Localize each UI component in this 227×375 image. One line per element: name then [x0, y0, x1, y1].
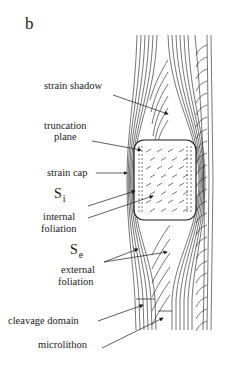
external-foliation-line: [207, 35, 209, 330]
microlithon-crenulation: [196, 261, 207, 271]
porphyroblast: [134, 140, 196, 220]
strain-shadow-curve: [152, 225, 170, 255]
strain-shadow-curve: [152, 84, 168, 124]
microlithon-crenulation: [196, 309, 207, 319]
microlithon-crenulation: [196, 321, 207, 331]
microlithon-crenulation: [196, 285, 207, 295]
strain-shadow-curve: [150, 60, 168, 100]
microlithon-crenulation: [196, 69, 207, 79]
arrow-strain-shadow: [113, 95, 168, 114]
arrow-cleavage-domain: [98, 305, 143, 321]
strain-shadow-curve: [151, 72, 168, 112]
microlithon-crenulation: [196, 81, 207, 91]
external-foliation-line: [211, 35, 213, 330]
microlithon-crenulation: [196, 273, 207, 283]
microlithon-crenulation: [196, 45, 207, 55]
microlithon-crenulation: [196, 93, 207, 103]
strain-shadow-curve: [152, 253, 170, 283]
arrow-microlithon: [102, 318, 163, 348]
leader-arrows: [88, 95, 172, 348]
strain-shadow-curve: [153, 96, 168, 136]
arrow-se-1: [104, 249, 138, 262]
microlithon-crenulation: [196, 297, 207, 307]
arrow-se-2: [104, 252, 167, 262]
microlithon-crenulation: [196, 105, 207, 115]
arrow-si-1: [88, 191, 135, 206]
foliation-diagram: [0, 0, 227, 375]
strain-shadow-curve: [152, 267, 170, 297]
